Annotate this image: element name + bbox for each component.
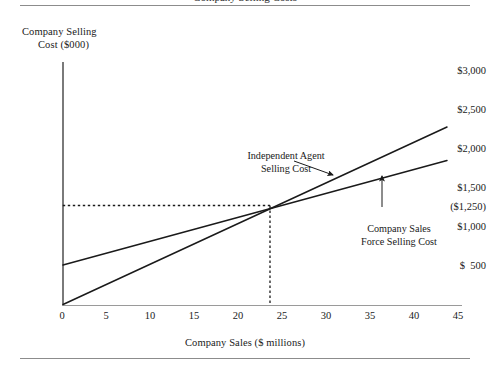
annotation-independent-agent: Independent Agent Selling Cost	[231, 136, 341, 188]
annotation-company-sales-force-line1: Company Sales	[367, 223, 431, 234]
annotation-independent-agent-line1: Independent Agent	[247, 150, 324, 161]
x-axis-title: Company Sales ($ millions)	[0, 336, 490, 349]
annotation-independent-agent-line2: Selling Cost	[231, 162, 341, 175]
figure-container: Company Selling Costs Company Selling Co…	[0, 0, 490, 373]
annotation-company-sales-force: Company Sales Force Selling Cost	[340, 209, 458, 261]
annotation-company-sales-force-line2: Force Selling Cost	[340, 235, 458, 248]
plot-area: $3,000 $2,500 $2,000 $1,500 ($1,250) $1,…	[0, 0, 490, 373]
